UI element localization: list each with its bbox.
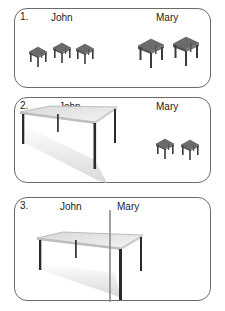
panel-1: 1. John Mary: [14, 8, 211, 88]
john-small-table-3: [76, 44, 94, 64]
small-tables-illustration: [15, 9, 212, 89]
shared-large-table: [33, 232, 143, 300]
john-large-table: [20, 106, 117, 183]
panel-2: 2. John Mary: [14, 97, 211, 183]
large-and-small-tables-illustration: [15, 98, 212, 184]
john-small-table-2: [53, 43, 71, 63]
mary-table-2: [173, 37, 199, 66]
panel-3: 3. John Mary: [14, 197, 211, 301]
mary-small-table-2: [181, 140, 199, 160]
shared-table-illustration: [15, 198, 212, 302]
mary-small-table-1: [156, 139, 174, 159]
john-small-table-1: [29, 47, 47, 67]
mary-table-1: [138, 39, 164, 68]
